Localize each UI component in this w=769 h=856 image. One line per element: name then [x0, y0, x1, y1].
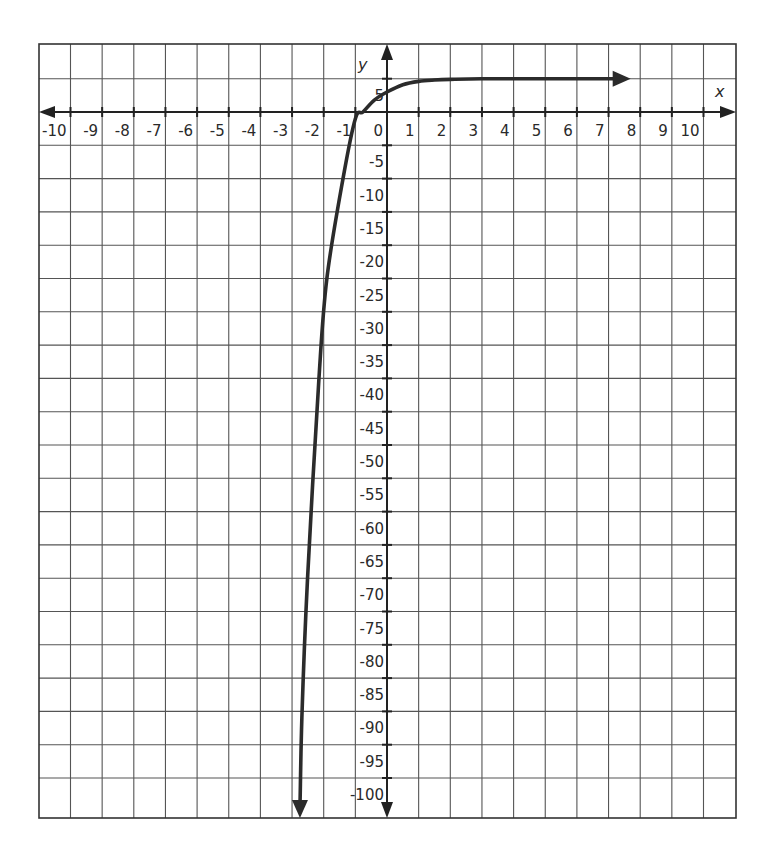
x-tick-label: -8 [115, 122, 130, 140]
x-tick-label: 4 [500, 122, 510, 140]
curve-right-arrow-icon [613, 71, 631, 87]
exponential-graph: -10-9-8-7-6-5-4-3-2-1012345678910 5-5-10… [0, 0, 769, 856]
y-tick-label: -20 [360, 253, 385, 271]
x-tick-label: -9 [83, 122, 98, 140]
x-tick-label: 6 [563, 122, 573, 140]
y-tick-label: -55 [360, 486, 385, 504]
x-axis-right-arrow-icon [720, 106, 736, 118]
y-tick-label: -35 [360, 353, 385, 371]
y-axis-down-arrow-icon [381, 802, 393, 818]
y-tick-label: -60 [360, 520, 385, 538]
x-tick-label: -7 [146, 122, 161, 140]
y-tick-label: -5 [369, 153, 384, 171]
y-tick-label: -10 [360, 187, 385, 205]
x-tick-label: 2 [437, 122, 447, 140]
x-tick-label: -4 [241, 122, 256, 140]
x-tick-label: 0 [373, 122, 383, 140]
axes [39, 44, 736, 818]
x-tick-label: -2 [305, 122, 320, 140]
y-tick-label: -65 [360, 553, 385, 571]
y-axis-label: y [357, 55, 368, 74]
y-tick-label: -25 [360, 287, 385, 305]
y-tick-label: -85 [360, 686, 385, 704]
y-tick-label: -40 [360, 386, 385, 404]
x-tick-label: 5 [532, 122, 542, 140]
x-tick-label: -10 [42, 122, 67, 140]
x-tick-label: 7 [595, 122, 605, 140]
y-tick-label: -70 [360, 586, 385, 604]
y-tick-label: -75 [360, 620, 385, 638]
y-tick-label: -15 [360, 220, 385, 238]
x-tick-label: 8 [627, 122, 637, 140]
y-tick-label: -30 [360, 320, 385, 338]
y-axis-up-arrow-icon [381, 44, 393, 60]
x-tick-labels: -10-9-8-7-6-5-4-3-2-1012345678910 [42, 122, 700, 140]
x-tick-label: -6 [178, 122, 193, 140]
x-tick-label: 1 [405, 122, 415, 140]
x-axis-label: x [714, 82, 725, 101]
x-tick-label: 3 [468, 122, 478, 140]
x-tick-label: -3 [273, 122, 288, 140]
curve-line [300, 79, 617, 804]
y-tick-label: -100 [350, 786, 384, 804]
x-tick-label: -5 [210, 122, 225, 140]
curve-series [292, 71, 631, 818]
y-tick-label: -45 [360, 420, 385, 438]
x-tick-label: 9 [658, 122, 668, 140]
x-axis-left-arrow-icon [39, 106, 55, 118]
y-tick-label: -90 [360, 719, 385, 737]
x-tick-label: 10 [680, 122, 699, 140]
y-tick-label: -50 [360, 453, 385, 471]
curve-down-arrow-icon [292, 800, 308, 818]
y-tick-label: -80 [360, 653, 385, 671]
y-tick-label: -95 [360, 753, 385, 771]
